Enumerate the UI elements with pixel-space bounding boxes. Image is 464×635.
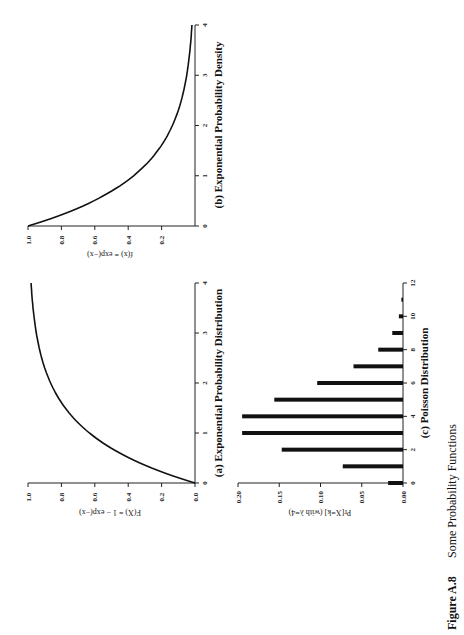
y-tick-label: 0.8 [58, 492, 66, 501]
caption-label: Figure A.8 [445, 576, 459, 630]
chart-panel-a: 01234 0.00.20.40.60.81.0 (a) Exponential… [25, 281, 226, 517]
x-tick-label: 2 [201, 381, 209, 385]
x-tick-label: 3 [201, 331, 209, 335]
x-tick-label: 4 [409, 414, 417, 418]
y-axis-label-b: f(x) = exp(−x) [87, 250, 133, 259]
cdf-curve [31, 283, 195, 483]
y-tick-label: 0.6 [91, 235, 99, 244]
x-tick-label: 6 [409, 381, 417, 385]
poisson-bar [343, 464, 403, 468]
y-axis-label-c: Pr[X=k] (with λ=4) [288, 508, 351, 517]
x-tick-label: 0 [409, 481, 417, 485]
x-tick-label: 8 [409, 347, 417, 351]
density-curve [28, 25, 192, 226]
panel-title-b: (b) Exponential Probability Density [212, 41, 225, 208]
x-tick-label: 1 [201, 174, 209, 178]
y-tick-label: 0.0 [192, 492, 200, 501]
x-tick-label: 3 [201, 73, 209, 77]
y-tick-label: 0.2 [158, 492, 166, 501]
caption-text: Some Probability Functions [445, 424, 459, 558]
x-tick-label: 0 [201, 224, 209, 228]
y-tick-label: 0.00 [400, 490, 408, 503]
poisson-bar [401, 298, 403, 302]
poisson-bar [388, 481, 403, 485]
y-tick-label: 1.0 [25, 492, 33, 501]
poisson-bar [242, 414, 403, 418]
y-axis-label-a: F(X) = 1 − exp(−x) [79, 508, 141, 517]
y-tick-label: 0.2 [158, 235, 166, 244]
figure-canvas: 01234 0.20.40.60.81.0 (b) Exponential Pr… [0, 0, 464, 635]
y-tick-label: 0.4 [125, 235, 133, 244]
panel-title-a: (a) Exponential Probability Distribution [212, 289, 225, 477]
chart-panel-b: 01234 0.20.40.60.81.0 (b) Exponential Pr… [25, 23, 226, 259]
panel-title-c: (c) Poisson Distribution [418, 328, 431, 439]
chart-panel-c: 024681012 0.000.050.100.150.20 (c) Poiss… [235, 279, 432, 517]
x-tick-label: 4 [201, 281, 209, 285]
x-tick-label: 1 [201, 431, 209, 435]
poisson-bar [282, 448, 403, 452]
y-tick-label: 0.4 [125, 492, 133, 501]
x-tick-label: 2 [409, 447, 417, 451]
x-tick-label: 2 [201, 123, 209, 127]
poisson-bar [399, 314, 403, 318]
x-tick-label: 4 [201, 23, 209, 27]
y-tick-label: 1.0 [25, 235, 33, 244]
x-tick-label: 0 [201, 481, 209, 485]
y-tick-label: 0.10 [317, 490, 325, 503]
poisson-bar [317, 381, 403, 385]
y-tick-label: 0.05 [358, 490, 366, 503]
poisson-bar [392, 331, 403, 335]
x-tick-label: 10 [409, 312, 417, 320]
poisson-bar [242, 431, 403, 435]
x-tick-label: 12 [409, 279, 417, 287]
y-tick-label: 0.15 [276, 490, 284, 503]
poisson-bar [274, 398, 403, 402]
poisson-bar [378, 348, 403, 352]
y-tick-label: 0.20 [235, 490, 243, 503]
figure-caption: Figure A.8 Some Probability Functions [445, 424, 459, 630]
y-tick-label: 0.6 [91, 492, 99, 501]
y-tick-label: 0.8 [58, 235, 66, 244]
poisson-bar [354, 364, 404, 368]
